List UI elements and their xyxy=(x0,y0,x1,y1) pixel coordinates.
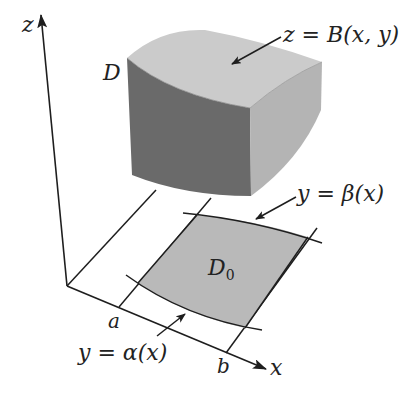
x-axis-label: x xyxy=(270,357,282,379)
volume-diagram: z x D z = B(x, y) y = β(x) y = α(x) D0 a… xyxy=(0,0,409,398)
surface-equation-label: z = B(x, y) xyxy=(283,24,399,46)
base-region-label: D0 xyxy=(208,257,235,282)
z-axis xyxy=(41,15,67,286)
y-direction-line xyxy=(67,190,156,286)
beta-pointer-arrow xyxy=(256,197,296,219)
base-region-subscript: 0 xyxy=(226,267,235,283)
a-bound-label: a xyxy=(108,311,120,331)
beta-curve-label: y = β(x) xyxy=(297,183,384,205)
base-region-letter: D xyxy=(208,255,226,280)
b-bound-label: b xyxy=(217,356,230,376)
solid-label: D xyxy=(103,62,121,84)
z-axis-label: z xyxy=(22,14,34,36)
alpha-curve-label: y = α(x) xyxy=(78,342,167,364)
